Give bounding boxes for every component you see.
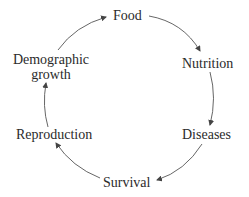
arrow-survival-to-reproduction — [56, 143, 100, 178]
node-demographic-growth-line2: growth — [11, 67, 91, 82]
node-food: Food — [113, 8, 142, 23]
arrow-nutrition-to-diseases — [210, 72, 214, 125]
node-survival: Survival — [103, 175, 150, 190]
node-nutrition: Nutrition — [182, 56, 233, 71]
arrow-reproduction-to-demographic-growth — [44, 83, 48, 127]
arrow-demographic-growth-to-food — [58, 17, 106, 50]
node-reproduction: Reproduction — [16, 127, 92, 142]
arrow-food-to-nutrition — [149, 16, 200, 51]
node-demographic-growth: Demographic growth — [11, 52, 91, 82]
node-diseases: Diseases — [182, 127, 231, 142]
node-demographic-growth-line1: Demographic — [11, 52, 91, 67]
cycle-arrows — [0, 0, 249, 197]
arrow-diseases-to-survival — [157, 144, 202, 180]
